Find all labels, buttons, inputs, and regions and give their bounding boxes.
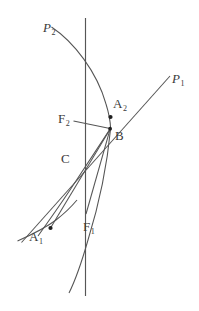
point-marker-a2 xyxy=(108,115,112,119)
segment-f2-b xyxy=(74,121,111,129)
point-marker-b xyxy=(108,127,112,131)
label-p1-text: P xyxy=(172,71,180,86)
lower-left-arc-curve xyxy=(18,200,78,241)
label-f2: F2 xyxy=(58,112,70,125)
p1-ray-line xyxy=(22,76,171,243)
label-a2-sub: 2 xyxy=(122,104,127,113)
label-f1: F1 xyxy=(83,220,95,233)
label-p2: P2 xyxy=(43,21,55,34)
label-p1: P1 xyxy=(172,72,184,85)
diagram-canvas xyxy=(0,0,199,311)
label-a2: A2 xyxy=(113,97,127,110)
a1-arc-curve xyxy=(38,129,110,236)
label-c: C xyxy=(61,152,70,165)
b-lower-arc-curve xyxy=(69,129,111,293)
geometry-diagram: P2 P1 A2 F2 B C A1 F1 xyxy=(0,0,199,311)
label-b: B xyxy=(115,129,124,142)
label-a1-text: A xyxy=(29,229,38,244)
point-marker-a1 xyxy=(48,226,52,230)
label-a1: A1 xyxy=(29,230,43,243)
label-p2-sub: 2 xyxy=(51,28,56,37)
label-p1-sub: 1 xyxy=(180,79,185,88)
label-f1-sub: 1 xyxy=(90,227,95,236)
label-p2-text: P xyxy=(43,20,51,35)
segment-a1-b xyxy=(51,129,111,228)
label-c-text: C xyxy=(61,151,70,166)
label-a2-text: A xyxy=(113,96,122,111)
label-b-text: B xyxy=(115,128,124,143)
label-f2-sub: 2 xyxy=(65,119,70,128)
label-a1-sub: 1 xyxy=(38,237,43,246)
